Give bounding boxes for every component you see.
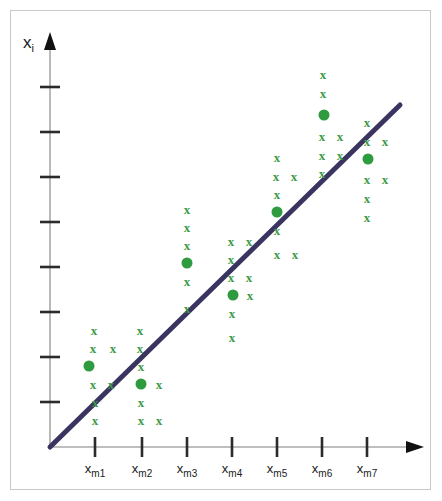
x-tick-label-subscript: m5 (273, 468, 287, 479)
data-point-marker: x (229, 331, 236, 344)
x-axis-arrowhead (406, 441, 424, 453)
cluster-mean-dot (228, 290, 239, 301)
x-tick-label-1: xm1 (85, 461, 105, 479)
data-point-marker: x (184, 221, 191, 234)
x-tick-label-subscript: m3 (183, 468, 197, 479)
data-point-marker: x (274, 151, 281, 164)
data-point-marker: x (337, 149, 344, 162)
data-point-marker: x (364, 116, 371, 129)
data-point-marker: x (108, 378, 115, 391)
data-point-marker: x (247, 289, 254, 302)
data-point-marker: x (292, 248, 299, 261)
cluster-mean-dot (182, 258, 193, 269)
data-point-marker: x (319, 130, 326, 143)
data-point-marker: x (156, 378, 163, 391)
data-point-marker: x (110, 342, 117, 355)
data-point-marker: x (291, 170, 298, 183)
data-point-marker: x (90, 378, 97, 391)
data-point-marker: x (228, 235, 235, 248)
data-point-marker: x (246, 271, 253, 284)
cluster-mean-dot (272, 207, 283, 218)
data-point-marker: x (320, 87, 327, 100)
data-point-marker: x (138, 396, 145, 409)
data-point-marker: x (364, 211, 371, 224)
data-point-marker: x (274, 188, 281, 201)
x-tick-label-5: xm5 (267, 461, 287, 479)
data-point-marker: x (320, 68, 327, 81)
data-point-marker: x (156, 414, 163, 427)
figure-container: xi xxxxxxxxxxxxxxxxxxxxxxxxxxxxxx (0, 0, 442, 501)
data-point-marker: x (91, 324, 98, 337)
data-point-marker: x (138, 414, 145, 427)
data-point-marker: x (319, 167, 326, 180)
x-tick-label-2: xm2 (132, 461, 152, 479)
data-point-marker: x (382, 135, 389, 148)
data-point-marker: x (92, 396, 99, 409)
data-point-marker: x (137, 342, 144, 355)
data-point-marker: x (92, 414, 99, 427)
data-point-marker: x (382, 173, 389, 186)
plot-svg (0, 0, 442, 501)
x-tick-label-subscript: m6 (318, 468, 332, 479)
cluster-mean-dot (319, 110, 330, 121)
cluster-mean-dot (363, 154, 374, 165)
data-point-marker: x (364, 192, 371, 205)
x-tick-label-subscript: m7 (363, 468, 377, 479)
data-point-marker: x (184, 239, 191, 252)
data-point-marker: x (90, 342, 97, 355)
data-point-marker: x (228, 253, 235, 266)
data-point-marker: x (184, 302, 191, 315)
data-point-marker: x (229, 307, 236, 320)
data-point-marker: x (337, 130, 344, 143)
data-point-marker: x (364, 173, 371, 186)
y-axis-arrowhead (44, 32, 56, 50)
data-point-marker: x (274, 224, 281, 237)
data-point-marker: x (274, 248, 281, 261)
x-tick-label-subscript: m1 (91, 468, 105, 479)
x-tick-label-3: xm3 (177, 461, 197, 479)
regression-line (50, 105, 400, 447)
data-point-marker: x (273, 170, 280, 183)
x-tick-label-subscript: m2 (138, 468, 152, 479)
x-tick-label-4: xm4 (222, 461, 242, 479)
data-point-marker: x (184, 275, 191, 288)
x-tick-label-6: xm6 (312, 461, 332, 479)
cluster-mean-dot (84, 361, 95, 372)
data-point-marker: x (228, 271, 235, 284)
x-tick-label-subscript: m4 (228, 468, 242, 479)
cluster-mean-dot (136, 379, 147, 390)
data-point-marker: x (184, 203, 191, 216)
data-point-marker: x (138, 360, 145, 373)
data-point-marker: x (364, 135, 371, 148)
data-point-marker: x (137, 324, 144, 337)
data-point-marker: x (246, 235, 253, 248)
data-point-marker: x (319, 149, 326, 162)
x-tick-label-7: xm7 (357, 461, 377, 479)
